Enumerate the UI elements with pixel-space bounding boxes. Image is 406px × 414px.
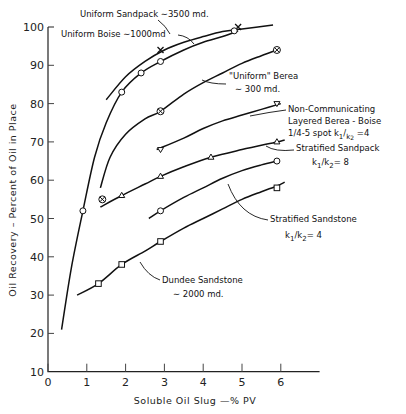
data-point-marker — [273, 46, 280, 53]
data-markers — [80, 24, 281, 286]
y-tick-label: 40 — [30, 251, 44, 264]
data-point-marker — [96, 281, 102, 287]
annotation-berea-1: "Uniform" Berea — [229, 71, 298, 81]
y-tick-label: 30 — [30, 289, 44, 302]
data-point-marker — [119, 89, 125, 95]
x-tick-label: 5 — [239, 376, 246, 389]
oil-recovery-chart: 0123456102030405060708090100 Soluble Oil… — [0, 0, 406, 414]
data-point-marker — [99, 196, 106, 203]
annotation-layered-3: 1/4-5 spot k1/k2 =4 — [288, 128, 369, 141]
annotation-berea-2: ∼ 300 md. — [235, 84, 280, 94]
data-point-marker — [158, 148, 164, 153]
annotation-layered-2: Layered Berea - Boise — [288, 116, 381, 126]
y-tick-label: 20 — [30, 327, 44, 340]
x-tick-label: 3 — [161, 376, 168, 389]
x-tick-label: 1 — [83, 376, 90, 389]
x-tick-label: 0 — [45, 376, 52, 389]
annotation-strat-sandpack-2: k1/k2= 8 — [312, 157, 349, 170]
y-tick-label: 50 — [30, 213, 44, 226]
y-tick-label: 10 — [30, 366, 44, 379]
annotation-dundee-1: Dundee Sandstone — [162, 275, 243, 285]
annotation-uniform-sandpack: Uniform Sandpack ∼3500 md. — [80, 9, 209, 19]
data-point-marker — [158, 58, 164, 64]
data-point-marker — [138, 70, 144, 76]
series-curve — [149, 161, 277, 218]
annotation-uniform-boise: Uniform Boise ∼1000md — [61, 29, 166, 39]
data-point-marker — [231, 28, 237, 34]
y-tick-label: 70 — [30, 136, 44, 149]
data-point-marker — [274, 185, 280, 191]
y-tick-label: 80 — [30, 98, 44, 111]
series-curve — [157, 104, 281, 150]
annotation-dundee-2: ∼ 2000 md. — [173, 289, 224, 299]
y-tick-label: 90 — [30, 59, 44, 72]
annotation-strat-sandstone-1: Stratified Sandstone — [270, 214, 357, 224]
data-point-marker — [274, 158, 280, 164]
annotation-strat-sandpack-1: Stratified Sandpack — [296, 143, 379, 153]
x-axis-title: Soluble Oil Slug —% PV — [134, 395, 256, 406]
y-tick-label: 100 — [23, 21, 44, 34]
y-tick-label: 60 — [30, 174, 44, 187]
annotation-layered-1: Non-Communicating — [288, 104, 375, 114]
data-point-marker — [158, 239, 164, 245]
x-tick-label: 4 — [200, 376, 207, 389]
data-point-marker — [119, 262, 125, 268]
annotation-strat-sandstone-2: k1/k2= 4 — [285, 230, 322, 243]
data-point-marker — [158, 208, 164, 214]
y-axis-title: Oil Recovery – Percent of Oil in Place — [7, 103, 18, 296]
series-curve — [100, 140, 284, 207]
data-point-marker — [80, 208, 86, 214]
data-point-marker — [157, 108, 164, 115]
x-tick-label: 6 — [277, 376, 284, 389]
x-tick-label: 2 — [122, 376, 129, 389]
